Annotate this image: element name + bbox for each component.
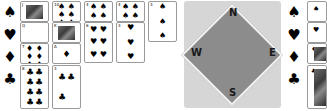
- card-rank: 3: [118, 24, 121, 28]
- east-label: E: [269, 48, 276, 58]
- card-pips: ♥♥♥♥♥♥: [90, 24, 107, 61]
- face-card-art: [58, 26, 75, 40]
- card-spades-3[interactable]: 3 ♠♠♠: [148, 1, 177, 42]
- clubs-suit-icon-right: ♣: [286, 72, 302, 87]
- face-card-art: [314, 47, 326, 61]
- card-pips: ♠♠♠♠: [122, 3, 139, 20]
- face-card-art: [314, 69, 326, 106]
- card-pips: ♠♠♠: [154, 3, 171, 40]
- card-pips: ♣♣♣♣♣♣♣♣: [26, 67, 43, 107]
- card-rank: 3: [150, 3, 153, 7]
- card-rank: 4: [86, 3, 89, 7]
- card-hearts-q[interactable]: Q: [20, 22, 49, 43]
- card-spades-10[interactable]: 10 ♠♠♠♠♠♠: [52, 1, 81, 22]
- card-pips: ♥♥♥: [122, 24, 139, 61]
- card-rank: 7: [22, 45, 25, 49]
- card-rank: 3: [54, 67, 57, 71]
- card-diamonds-a[interactable]: A ♦: [52, 43, 81, 64]
- card-pips: ♠♠♠♠♠♠: [58, 3, 75, 20]
- card-rank: K: [54, 24, 57, 28]
- card-hearts-6[interactable]: 6 ♥♥♥♥♥♥: [84, 22, 113, 63]
- west-label: W: [191, 48, 202, 58]
- card-clubs-3[interactable]: 3 ♣♣♣: [52, 65, 81, 109]
- card-right-diamonds[interactable]: ♦: [307, 43, 327, 64]
- card-rank: Q: [22, 24, 25, 28]
- card-pips: ♦♦♦♦♦♦♦: [26, 45, 43, 62]
- card-rank: 4: [118, 3, 121, 7]
- card-right-spades[interactable]: ♠: [307, 1, 327, 22]
- card-spades-j[interactable]: J: [20, 1, 49, 22]
- card-right-hearts[interactable]: ♥: [307, 22, 327, 43]
- card-suit: ♥: [313, 27, 319, 34]
- card-rank: J: [22, 3, 23, 7]
- north-label: N: [229, 8, 237, 18]
- card-spades-4a[interactable]: 4 ♠♠♠♠: [84, 1, 113, 22]
- face-card-art: [26, 5, 43, 19]
- card-right-clubs[interactable]: ♣: [307, 65, 327, 109]
- card-spades-4b[interactable]: 4 ♠♠♠♠: [116, 1, 145, 22]
- spades-suit-icon: ♠: [2, 5, 18, 20]
- card-rank: 8: [22, 67, 25, 71]
- spades-suit-icon-right: ♠: [286, 5, 302, 20]
- card-pips: ♣♣♣: [58, 67, 75, 107]
- card-hearts-k[interactable]: K: [52, 22, 81, 43]
- card-pips: ♦: [53, 49, 80, 58]
- diamonds-suit-icon: ♦: [2, 50, 18, 65]
- card-rank: 6: [86, 24, 89, 28]
- hearts-suit-icon-right: ♥: [286, 28, 302, 43]
- south-label: S: [229, 88, 236, 98]
- card-suit: ♠: [313, 6, 319, 13]
- card-pips: ♠♠♠♠: [90, 3, 107, 20]
- clubs-suit-icon: ♣: [2, 72, 18, 87]
- card-hearts-3[interactable]: 3 ♥♥♥: [116, 22, 145, 63]
- hearts-suit-icon: ♥: [2, 28, 18, 43]
- card-clubs-8[interactable]: 8 ♣♣♣♣♣♣♣♣: [20, 65, 49, 109]
- card-diamonds-7[interactable]: 7 ♦♦♦♦♦♦♦: [20, 43, 49, 64]
- diamonds-suit-icon-right: ♦: [286, 50, 302, 65]
